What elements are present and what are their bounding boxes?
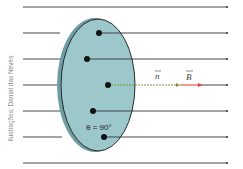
field-label: B bbox=[186, 72, 192, 82]
arrowheads bbox=[226, 6, 228, 164]
flux-diagram: n B θ = 90° bbox=[0, 0, 243, 169]
normal-arrowhead bbox=[176, 83, 180, 87]
normal-label: n bbox=[155, 71, 160, 81]
illustration-credit: Ilustrações: Danial das Neves bbox=[7, 49, 14, 149]
field-arrowhead bbox=[198, 83, 202, 87]
vector-labels: n B bbox=[155, 71, 193, 82]
angle-label: θ = 90° bbox=[86, 123, 112, 132]
